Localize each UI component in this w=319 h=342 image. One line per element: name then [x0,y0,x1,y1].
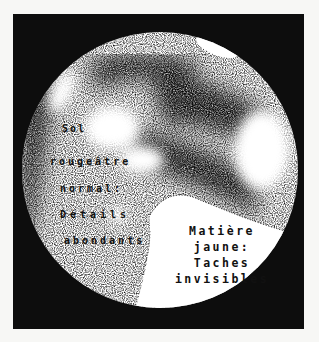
label-matiere: Matière [172,226,272,238]
label-sol: Sol [62,124,86,134]
label-jaune: jaune: [172,242,272,254]
label-normal: normal: [60,184,123,194]
label-taches: Taches [172,258,272,270]
label-abondants: abondants [64,236,145,246]
planet-disc [0,0,319,342]
label-invisibles: invisibles [166,274,278,286]
label-rougeatre: rougeâtre [50,157,131,167]
label-details: Détails [60,210,130,220]
